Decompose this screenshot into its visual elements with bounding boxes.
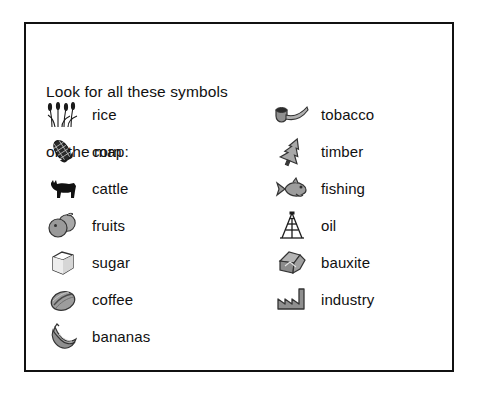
legend-label: bauxite (315, 254, 370, 271)
cattle-icon (40, 172, 86, 206)
legend-label: rice (86, 106, 117, 123)
legend-label: bananas (86, 328, 150, 345)
legend-item-industry: industry (269, 281, 459, 318)
legend-item-bananas: bananas (40, 318, 240, 355)
oil-derrick-icon (269, 209, 315, 243)
legend-label: corn (86, 143, 122, 160)
legend-label: tobacco (315, 106, 374, 123)
coffee-icon (40, 283, 86, 317)
legend-label: fishing (315, 180, 365, 197)
legend-column-right: tobacco timber (269, 96, 459, 318)
industry-factory-icon (269, 283, 315, 317)
legend-column-left: rice corn (40, 96, 240, 355)
fishing-fish-icon (269, 172, 315, 206)
legend-label: sugar (86, 254, 130, 271)
legend-item-tobacco: tobacco (269, 96, 459, 133)
legend-item-timber: timber (269, 133, 459, 170)
legend-item-oil: oil (269, 207, 459, 244)
legend-item-bauxite: bauxite (269, 244, 459, 281)
bananas-icon (40, 320, 86, 354)
legend-label: industry (315, 291, 374, 308)
legend-item-fishing: fishing (269, 170, 459, 207)
legend-item-cattle: cattle (40, 170, 240, 207)
legend-label: cattle (86, 180, 128, 197)
legend-card: Look for all these symbols on the map: (24, 22, 454, 372)
fruits-icon (40, 209, 86, 243)
sugar-icon (40, 246, 86, 280)
tobacco-pipe-icon (269, 98, 315, 132)
bauxite-ore-icon (269, 246, 315, 280)
legend-label: fruits (86, 217, 125, 234)
timber-tree-icon (269, 135, 315, 169)
legend-label: coffee (86, 291, 133, 308)
legend-item-rice: rice (40, 96, 240, 133)
legend-label: timber (315, 143, 363, 160)
legend-item-corn: corn (40, 133, 240, 170)
legend-item-sugar: sugar (40, 244, 240, 281)
legend-item-coffee: coffee (40, 281, 240, 318)
legend-item-fruits: fruits (40, 207, 240, 244)
corn-icon (40, 135, 86, 169)
legend-label: oil (315, 217, 336, 234)
rice-icon (40, 98, 86, 132)
